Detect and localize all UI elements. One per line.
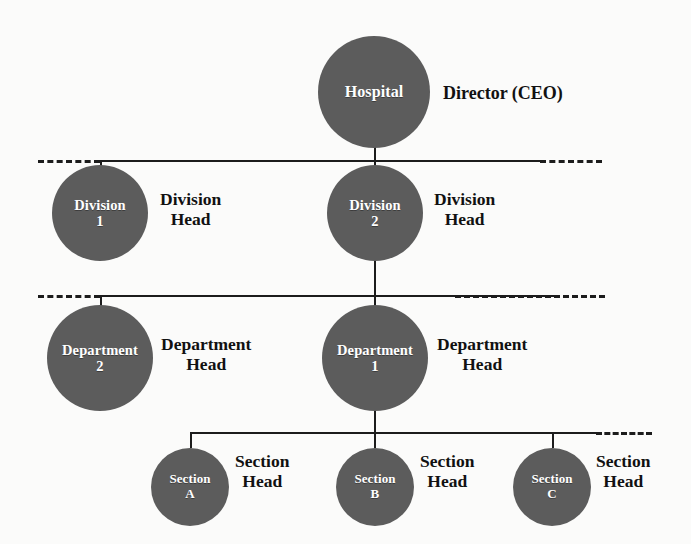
node-section-b-label-line1: Section xyxy=(354,472,395,487)
node-department-2-label-line2: 2 xyxy=(96,358,103,374)
node-section-b[interactable]: Section B xyxy=(336,448,414,526)
role-label-section-a: Section Head xyxy=(235,452,289,492)
node-section-c-label-line2: C xyxy=(547,487,557,502)
node-division-2-label-line1: Division xyxy=(349,197,401,213)
connector-department-bus-dash-right xyxy=(455,295,605,298)
node-section-a-label-line1: Section xyxy=(169,472,210,487)
role-division-2-line1: Division xyxy=(434,189,495,209)
role-section-b-line1: Section xyxy=(420,451,474,471)
node-department-1[interactable]: Department 1 xyxy=(322,305,428,411)
node-division-1-label-line2: 1 xyxy=(96,213,103,229)
role-label-division-1: Division Head xyxy=(160,190,221,230)
role-label-department-1: Department Head xyxy=(437,335,527,375)
node-department-2-label-line1: Department xyxy=(62,342,138,358)
node-department-1-label-line2: 1 xyxy=(371,358,378,374)
role-division-1-line1: Division xyxy=(160,189,221,209)
node-division-1[interactable]: Division 1 xyxy=(52,165,148,261)
role-section-c-line2: Head xyxy=(603,471,643,491)
role-department-2-line1: Department xyxy=(161,334,251,354)
connector-division-bus-dash-right xyxy=(540,160,602,163)
node-section-a-label-line2: A xyxy=(185,487,195,502)
role-director-line1: Director (CEO) xyxy=(443,83,563,103)
connector-department-bus-dash-left xyxy=(38,295,100,298)
connector-hospital-stem xyxy=(374,147,376,161)
role-section-a-line2: Head xyxy=(242,471,282,491)
node-division-2-label-line2: 2 xyxy=(371,213,378,229)
node-division-1-label-line1: Division xyxy=(74,197,126,213)
role-department-2-line2: Head xyxy=(186,354,226,374)
role-label-director: Director (CEO) xyxy=(443,83,563,104)
role-label-section-b: Section Head xyxy=(420,452,474,492)
connector-division-bus xyxy=(100,160,540,162)
node-section-b-label-line2: B xyxy=(371,487,380,502)
role-division-1-line2: Head xyxy=(171,209,211,229)
node-division-2[interactable]: Division 2 xyxy=(327,165,423,261)
node-hospital[interactable]: Hospital xyxy=(318,36,430,148)
connector-division-bus-dash-left xyxy=(38,160,100,163)
role-department-1-line1: Department xyxy=(437,334,527,354)
connector-division-2-stem xyxy=(374,260,376,295)
node-section-c-label-line1: Section xyxy=(531,472,572,487)
role-division-2-line2: Head xyxy=(445,209,485,229)
node-section-a[interactable]: Section A xyxy=(151,448,229,526)
role-department-1-line2: Head xyxy=(462,354,502,374)
connector-section-a-drop xyxy=(190,432,192,448)
connector-section-bus-dash-right xyxy=(596,432,652,435)
role-section-a-line1: Section xyxy=(235,451,289,471)
role-section-c-line1: Section xyxy=(596,451,650,471)
node-hospital-label-line1: Hospital xyxy=(345,83,404,101)
node-section-c[interactable]: Section C xyxy=(513,448,591,526)
connector-department-1-stem xyxy=(374,410,376,432)
org-chart-canvas: Hospital Director (CEO) Division 1 Divis… xyxy=(0,0,691,544)
role-section-b-line2: Head xyxy=(427,471,467,491)
connector-section-b-drop xyxy=(374,432,376,448)
connector-section-c-drop xyxy=(552,432,554,448)
node-department-2[interactable]: Department 2 xyxy=(47,305,153,411)
role-label-department-2: Department Head xyxy=(161,335,251,375)
role-label-division-2: Division Head xyxy=(434,190,495,230)
node-department-1-label-line1: Department xyxy=(337,342,413,358)
role-label-section-c: Section Head xyxy=(596,452,650,492)
connector-section-bus xyxy=(190,432,596,434)
